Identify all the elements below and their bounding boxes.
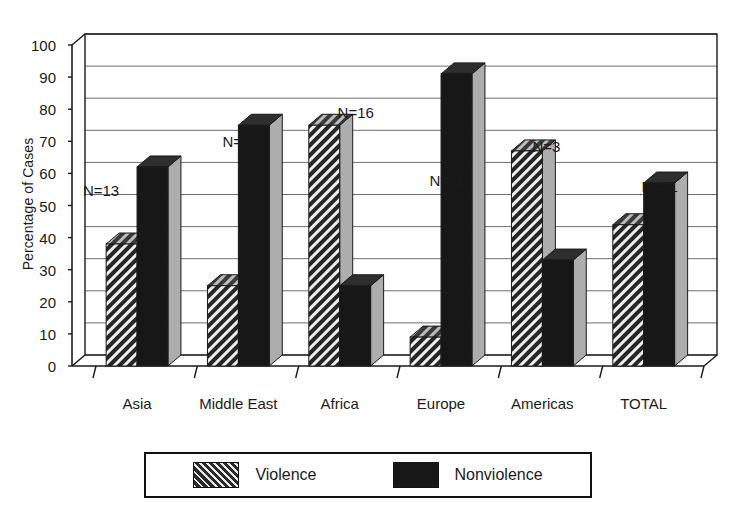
chart-figure: Percentage of Cases 01020304050607080901… xyxy=(0,0,733,517)
x-axis-category-labels: AsiaMiddle EastAfricaEuropeAmericasTOTAL xyxy=(68,392,723,420)
y-tick-label-10: 10 xyxy=(14,326,56,341)
legend-label-nonviolence: Nonviolence xyxy=(455,467,543,483)
n-annotation-americas: N=3 xyxy=(532,139,560,154)
sample-size-annotations: N=13N=8N=16N=11N=3N=51 xyxy=(68,28,723,390)
y-tick-label-70: 70 xyxy=(14,134,56,149)
solid-black-swatch xyxy=(393,462,439,488)
y-tick-label-30: 30 xyxy=(14,262,56,277)
x-label-asia: Asia xyxy=(122,396,151,411)
legend-label-violence: Violence xyxy=(255,467,316,483)
y-tick-label-60: 60 xyxy=(14,166,56,181)
n-annotation-europe: N=11 xyxy=(429,173,464,188)
x-label-middle-east: Middle East xyxy=(199,396,277,411)
y-tick-label-0: 0 xyxy=(14,359,56,374)
x-label-americas: Americas xyxy=(511,396,574,411)
x-label-africa: Africa xyxy=(321,396,359,411)
x-label-total: TOTAL xyxy=(620,396,667,411)
n-annotation-middle-east: N=8 xyxy=(222,134,250,149)
y-tick-label-50: 50 xyxy=(14,198,56,213)
n-annotation-asia: N=13 xyxy=(83,183,119,198)
y-tick-label-40: 40 xyxy=(14,230,56,245)
legend-entry-nonviolence: Nonviolence xyxy=(393,462,543,488)
chart-legend: Violence Nonviolence xyxy=(144,452,592,498)
y-tick-label-80: 80 xyxy=(14,102,56,117)
hatched-swatch xyxy=(193,462,239,488)
y-tick-label-100: 100 xyxy=(14,38,56,53)
y-tick-label-90: 90 xyxy=(14,70,56,85)
n-annotation-africa: N=16 xyxy=(338,105,374,120)
n-annotation-total: N=51 xyxy=(642,179,678,194)
y-axis-tick-labels: 0102030405060708090100 xyxy=(0,28,56,390)
legend-entry-violence: Violence xyxy=(193,462,316,488)
y-tick-label-20: 20 xyxy=(14,294,56,309)
x-label-europe: Europe xyxy=(417,396,465,411)
